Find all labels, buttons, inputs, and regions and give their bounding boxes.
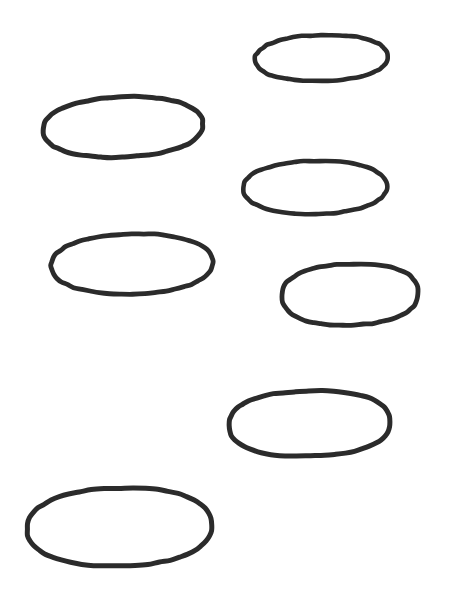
drawing-canvas — [0, 0, 450, 597]
canvas-background — [0, 0, 450, 597]
ellipses-svg — [0, 0, 450, 597]
